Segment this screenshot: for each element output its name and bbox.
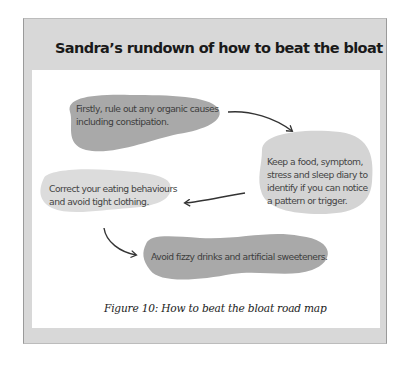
step-4-line-1: Avoid fizzy drinks and artificial sweete… [151, 250, 328, 263]
step-3-line-1: Correct your eating behaviours [49, 182, 177, 195]
arrow-2-to-3 [185, 193, 245, 203]
arrow-1-to-2 [228, 112, 292, 131]
step-2-line-4: a pattern or trigger. [267, 194, 368, 207]
figure-caption: Figure 10: How to beat the bloat road ma… [104, 302, 327, 314]
step-3-line-2: and avoid tight clothing. [49, 195, 177, 208]
step-3-text: Correct your eating behaviours and avoid… [49, 182, 177, 208]
step-1-line-2: including constipation. [76, 115, 218, 128]
arrow-3-to-4 [104, 228, 136, 255]
step-2-line-1: Keep a food, symptom, [267, 155, 368, 168]
step-1-line-1: Firstly, rule out any organic causes [76, 102, 218, 115]
step-2-text: Keep a food, symptom, stress and sleep d… [267, 155, 368, 207]
step-2-line-2: stress and sleep diary to [267, 168, 368, 181]
step-2-line-3: identify if you can notice [267, 181, 368, 194]
step-4-text: Avoid fizzy drinks and artificial sweete… [151, 250, 328, 263]
step-1-text: Firstly, rule out any organic causes inc… [76, 102, 218, 128]
